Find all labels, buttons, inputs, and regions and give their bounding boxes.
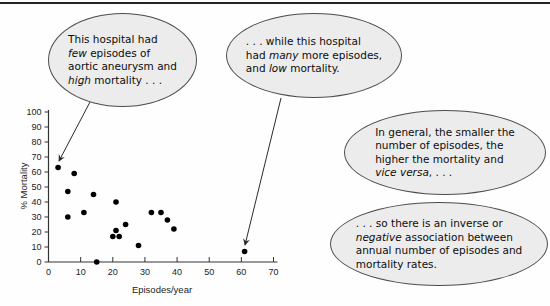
axes-group: 0102030405060700102030405060708090100 (26, 107, 278, 277)
x-tick-label: 30 (140, 267, 150, 277)
data-point (116, 234, 122, 240)
callout-bubble-general-pattern: In general, the smaller thenumber of epi… (344, 110, 546, 195)
data-point (71, 171, 77, 177)
x-tick-label: 70 (268, 267, 278, 277)
data-point (242, 249, 248, 255)
y-tick-label: 60 (31, 167, 41, 177)
data-points-group (55, 165, 247, 265)
x-axis-label: Episodes/year (49, 284, 275, 295)
y-tick-label: 70 (31, 152, 41, 162)
y-tick-label: 100 (26, 107, 41, 117)
data-point (65, 214, 71, 220)
annotation-arrows-group (59, 98, 281, 245)
data-point (113, 199, 119, 205)
annotation-arrow (59, 102, 90, 161)
callout-bubble-many-episodes: . . . while this hospitalhad many more e… (226, 13, 402, 98)
y-tick-label: 20 (31, 227, 41, 237)
x-tick-label: 40 (172, 267, 182, 277)
callout-text: . . . so there is an inverse ornegative … (356, 217, 523, 271)
y-tick-label: 10 (31, 242, 41, 252)
y-tick-label: 50 (31, 182, 41, 192)
data-point (91, 192, 97, 198)
y-tick-label: 90 (31, 122, 41, 132)
data-point (149, 210, 155, 216)
data-point (65, 189, 71, 195)
callout-bubble-few-episodes: This hospital hadfew episodes ofaortic a… (48, 13, 197, 107)
y-axis-label: % Mortality (18, 163, 29, 210)
annotated-scatter-figure: 0102030405060700102030405060708090100 % … (0, 0, 550, 306)
callout-text: This hospital hadfew episodes ofaortic a… (68, 33, 177, 87)
data-point (81, 210, 87, 216)
data-point (94, 259, 100, 265)
data-point (158, 210, 164, 216)
data-point (123, 222, 129, 228)
callout-text: . . . while this hospitalhad many more e… (246, 35, 382, 76)
x-tick-label: 50 (204, 267, 214, 277)
x-tick-label: 60 (236, 267, 246, 277)
data-point (171, 226, 177, 232)
data-point (136, 243, 142, 249)
y-tick-label: 30 (31, 212, 41, 222)
y-tick-label: 80 (31, 137, 41, 147)
callout-bubble-inverse-association: . . . so there is an inverse ornegative … (330, 202, 548, 286)
data-point (55, 165, 61, 171)
data-point (165, 217, 171, 223)
y-tick-label: 0 (36, 257, 41, 267)
y-tick-label: 40 (31, 197, 41, 207)
x-tick-label: 10 (76, 267, 86, 277)
callout-text: In general, the smaller thenumber of epi… (375, 126, 515, 180)
x-tick-label: 0 (46, 267, 51, 277)
data-point (113, 228, 119, 234)
x-tick-label: 20 (108, 267, 118, 277)
data-point (110, 234, 116, 240)
annotation-arrow (245, 98, 281, 245)
